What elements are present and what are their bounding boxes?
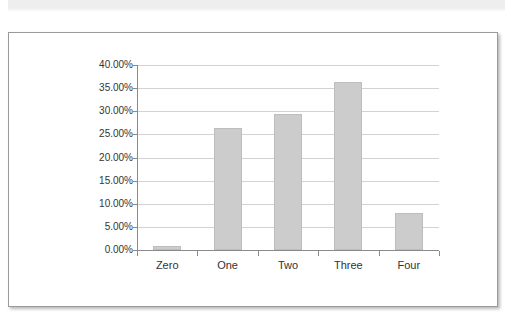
y-axis-tick	[133, 181, 137, 182]
top-gray-band-shade	[8, 9, 505, 11]
x-axis-tick	[137, 251, 138, 256]
top-gray-band	[8, 0, 505, 9]
x-axis-label-one: One	[197, 259, 257, 271]
x-axis-tick	[258, 251, 259, 256]
y-axis-tick-label: 15.00%	[13, 176, 133, 186]
y-axis-tick	[133, 227, 137, 228]
x-axis-tick	[439, 251, 440, 256]
y-axis-tick	[133, 204, 137, 205]
gridline	[138, 65, 439, 66]
y-axis-tick-label: 30.00%	[13, 106, 133, 116]
y-axis-tick	[133, 134, 137, 135]
y-axis-tick-label: 0.00%	[13, 245, 133, 255]
y-axis-tick	[133, 65, 137, 66]
y-axis-tick-label: 20.00%	[13, 153, 133, 163]
y-axis-tick-label: 35.00%	[13, 83, 133, 93]
y-axis-tick	[133, 111, 137, 112]
gridline	[138, 111, 439, 112]
y-axis-tick	[133, 158, 137, 159]
x-axis-label-zero: Zero	[137, 259, 197, 271]
y-axis-tick-label: 25.00%	[13, 129, 133, 139]
y-axis-tick-label: 40.00%	[13, 60, 133, 70]
bar-zero[interactable]	[153, 246, 181, 250]
y-axis-tick	[133, 88, 137, 89]
bar-two[interactable]	[274, 114, 302, 250]
y-axis-tick-label: 5.00%	[13, 222, 133, 232]
x-axis-label-four: Four	[379, 259, 439, 271]
bar-four[interactable]	[395, 213, 423, 250]
x-axis-tick	[379, 251, 380, 256]
y-axis-tick-label: 10.00%	[13, 199, 133, 209]
bar-one[interactable]	[214, 128, 242, 250]
x-axis-tick	[318, 251, 319, 256]
chart-card: 0.00%5.00%10.00%15.00%20.00%25.00%30.00%…	[8, 32, 498, 307]
x-axis-label-two: Two	[258, 259, 318, 271]
x-axis-line	[137, 250, 439, 251]
plot-area: 0.00%5.00%10.00%15.00%20.00%25.00%30.00%…	[137, 65, 439, 250]
gridline	[138, 88, 439, 89]
x-axis-tick	[197, 251, 198, 256]
bar-three[interactable]	[334, 82, 362, 250]
x-axis-label-three: Three	[318, 259, 378, 271]
